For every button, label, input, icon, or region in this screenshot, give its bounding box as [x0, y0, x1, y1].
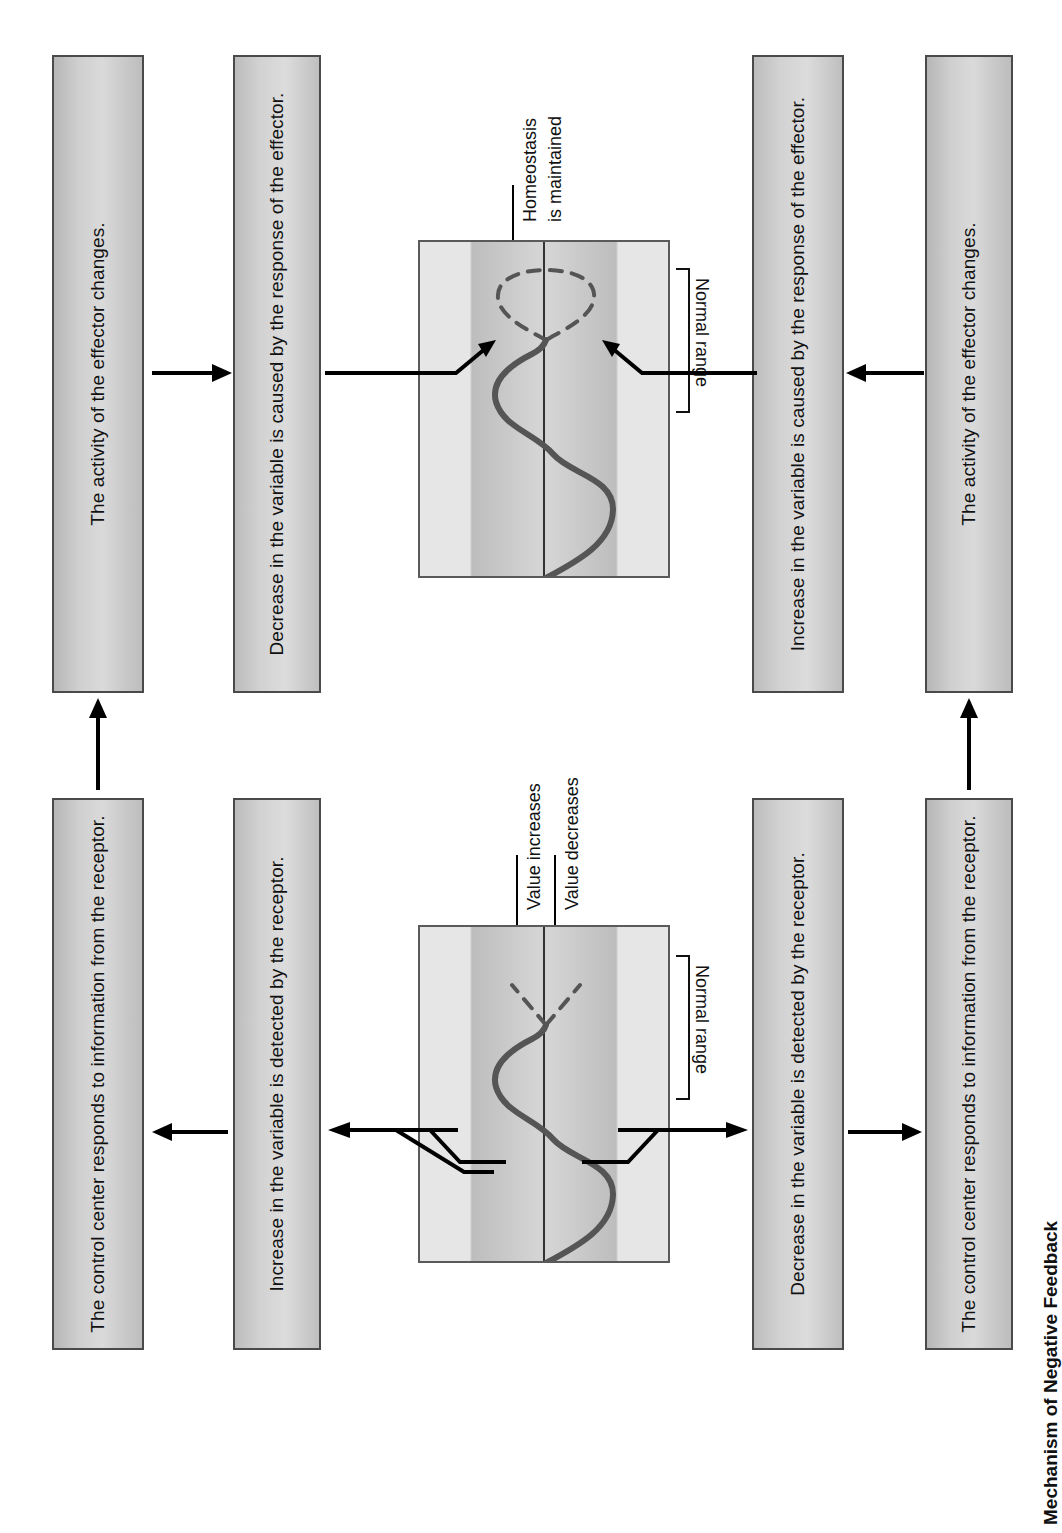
arrow-line-top-2: [325, 371, 425, 375]
box-label: The activity of the effector changes.: [954, 55, 984, 693]
graph-bottom-label-decrease: Value decreases: [562, 777, 583, 910]
box-decrease-detected: Decrease in the variable is detected by …: [752, 798, 844, 1350]
graph-panel-top: [418, 240, 670, 578]
graph-bottom-label-leader-b: [554, 855, 556, 925]
graph-top-caption-line1: Homeostasis: [520, 118, 541, 222]
box-label: The control center responds to informati…: [954, 798, 984, 1350]
arrow-line-bottom-4: [848, 1130, 904, 1134]
box-label: Increase in the variable is detected by …: [262, 798, 292, 1350]
arrow-line-loop-right: [967, 712, 971, 790]
box-label: The control center responds to informati…: [83, 798, 113, 1350]
graph-top-normal-range-bracket: [676, 268, 690, 413]
arrow-head-bottom-4: [902, 1123, 922, 1141]
box-effector-activity-right: The activity of the effector changes.: [925, 55, 1013, 693]
graph-bottom-label-increase: Value increases: [524, 783, 545, 910]
box-increase-caused: Increase in the variable is caused by th…: [752, 55, 844, 693]
arrow-top-2-bend: [420, 330, 510, 390]
graph-bottom-label-leader-a: [516, 855, 518, 925]
arrow-head-loop-left: [89, 698, 107, 718]
graph-top-caption-line2: is maintained: [545, 116, 566, 222]
box-label: Decrease in the variable is caused by th…: [262, 55, 292, 693]
box-label: Decrease in the variable is detected by …: [783, 798, 813, 1350]
graph-bottom-normal-range-bracket: [676, 955, 690, 1100]
divergence-trace-left: [512, 985, 546, 1025]
arrow-head-bottom-1: [152, 1123, 172, 1141]
box-label: Increase in the variable is caused by th…: [783, 55, 813, 693]
graph-top-caption-leader: [512, 185, 514, 240]
arrow-line-bottom-1: [172, 1130, 228, 1134]
arrow-line-top-1: [152, 371, 214, 375]
box-increase-detected: Increase in the variable is detected by …: [233, 798, 321, 1350]
graph-bottom-traces: [420, 927, 670, 1263]
figure-title: Mechanism of Negative Feedback: [1040, 1221, 1062, 1525]
box-control-center-left: The control center responds to informati…: [52, 798, 144, 1350]
arrow-line-top-4: [866, 371, 924, 375]
arrow-head-loop-right: [960, 698, 978, 718]
box-decrease-caused: Decrease in the variable is caused by th…: [233, 55, 321, 693]
box-control-center-right: The control center responds to informati…: [925, 798, 1013, 1350]
box-label: The activity of the effector changes.: [83, 55, 113, 693]
arrow-head-top-1: [212, 364, 232, 382]
projected-return-trace: [498, 270, 594, 340]
graph-panel-bottom: [418, 925, 670, 1263]
arrow-head-top-4: [846, 364, 866, 382]
graph-bottom-bracket-label: Normal range: [691, 965, 712, 1074]
arrow-top-3-bend: [588, 330, 678, 390]
arrow-line-loop-left: [96, 712, 100, 790]
arrow-bottom-2-elbow: [418, 1118, 508, 1188]
box-effector-activity-left: The activity of the effector changes.: [52, 55, 144, 693]
arrow-bottom-3-elbow: [580, 1118, 670, 1188]
graph-top-traces: [420, 242, 670, 578]
divergence-trace-right: [546, 985, 580, 1025]
